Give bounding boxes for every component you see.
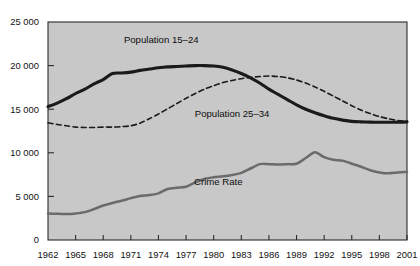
series-label: Population 25–34 [195, 108, 270, 119]
x-tick-label: 1998 [369, 249, 390, 260]
x-tick-label: 1989 [286, 249, 307, 260]
x-tick-label: 1962 [38, 249, 59, 260]
x-tick-label: 1983 [231, 249, 252, 260]
y-tick-label: 0 [34, 234, 39, 245]
series-label: Population 15–24 [124, 34, 199, 45]
x-tick-label: 1995 [341, 249, 362, 260]
chart-figure: 05 00010 00015 00020 00025 000 196219651… [0, 0, 420, 266]
y-tick-label: 10 000 [10, 147, 39, 158]
x-axis-tick-labels: 1962196519681971197419771980198319861989… [38, 249, 418, 260]
y-tick-label: 25 000 [10, 16, 39, 27]
x-tick-label: 1974 [148, 249, 169, 260]
x-tick-label: 1980 [203, 249, 224, 260]
x-tick-label: 1968 [93, 249, 114, 260]
x-tick-label: 1971 [120, 249, 141, 260]
x-tick-label: 1977 [176, 249, 197, 260]
y-axis-tick-labels: 05 00010 00015 00020 00025 000 [10, 16, 39, 245]
y-tick-label: 15 000 [10, 104, 39, 115]
x-tick-label: 2001 [397, 249, 418, 260]
line-chart: 05 00010 00015 00020 00025 000 196219651… [0, 0, 420, 266]
x-tick-label: 1992 [314, 249, 335, 260]
series-label: Crime Rate [194, 176, 243, 187]
y-tick-label: 20 000 [10, 60, 39, 71]
x-tick-label: 1986 [258, 249, 279, 260]
x-tick-label: 1965 [65, 249, 86, 260]
y-tick-label: 5 000 [16, 191, 39, 202]
